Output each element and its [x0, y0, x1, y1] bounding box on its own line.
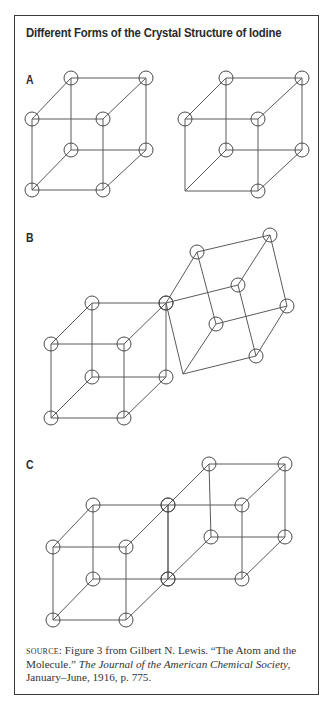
cube-1 — [25, 71, 153, 197]
bond-line — [256, 306, 287, 356]
bond-line — [209, 464, 211, 537]
cube-1 — [44, 296, 173, 425]
crystal-structure-diagram — [0, 0, 335, 713]
bond-line — [126, 579, 168, 620]
cube-2 — [161, 457, 292, 586]
source-journal: The Journal of the American Chemical Soc… — [79, 658, 290, 670]
bond-line — [168, 537, 211, 579]
cube-2 — [159, 228, 294, 374]
panel-b-cubes — [44, 228, 294, 425]
source-citation: Source: Figure 3 from Gilbert N. Lewis. … — [26, 644, 316, 685]
bond-line — [103, 150, 146, 190]
bond-line — [185, 78, 226, 119]
bond-line — [242, 537, 285, 579]
bond-line — [126, 505, 168, 547]
panel-c-cubes — [46, 457, 292, 627]
bond-line — [183, 324, 216, 374]
bond-line — [53, 505, 93, 547]
bond-line — [216, 306, 287, 324]
bond-line — [258, 78, 302, 119]
bond-line — [166, 303, 183, 374]
panel-a-cubes — [25, 71, 309, 198]
bond-line — [197, 252, 216, 324]
bond-line — [51, 377, 92, 418]
bond-line — [124, 303, 166, 344]
cube-2 — [178, 71, 309, 198]
bond-line — [53, 579, 93, 620]
bond-line — [124, 377, 166, 418]
bond-line — [51, 303, 92, 344]
bond-line — [166, 285, 238, 303]
bond-line — [103, 78, 146, 119]
bond-line — [32, 150, 71, 190]
source-text-2: January–June, 1916, p. 775. — [26, 671, 151, 683]
bond-line — [238, 285, 256, 356]
cube-1 — [46, 498, 175, 627]
bond-line — [270, 235, 287, 306]
bond-line — [185, 150, 226, 191]
bond-line — [168, 464, 209, 505]
bond-line — [258, 150, 302, 191]
source-tag: Source: — [26, 644, 62, 656]
bond-line — [242, 464, 285, 505]
bond-line — [183, 356, 256, 374]
bond-line — [197, 235, 270, 252]
bond-line — [238, 235, 270, 285]
bond-line — [32, 78, 71, 119]
bond-line — [166, 252, 197, 303]
